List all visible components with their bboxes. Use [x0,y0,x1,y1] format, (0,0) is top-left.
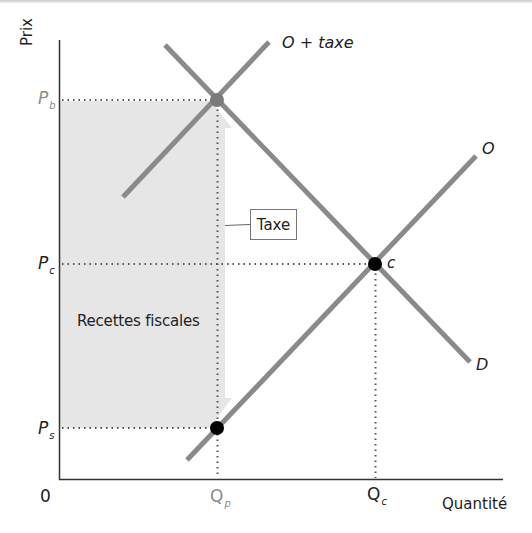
supply-curve [187,156,476,460]
qp-main: Q [210,486,223,506]
supply-tax-label: O + taxe [282,35,354,51]
pb-label: Pb [38,90,56,107]
qc-label: Qc [367,486,387,503]
y-axis-title: Prix [18,18,36,46]
qc-sub: c [381,496,387,507]
origin-label: 0 [40,488,51,505]
qp-sub: p [224,498,230,509]
tax-incidence-diagram [0,0,532,533]
pc-label: Pc [38,255,55,272]
tax-callout-box: Taxe [250,209,297,240]
supply-tax-label-taxe: taxe [318,33,353,52]
tax-callout-text: Taxe [257,216,291,234]
x-axis-title: Quantité [442,497,507,512]
tax-callout-line [225,225,250,226]
tax-revenue-label: Recettes fiscales [77,312,200,330]
ps-label: Ps [38,420,54,437]
supply-label: O [482,141,495,157]
qc-main: Q [367,484,380,504]
qp-label: Qp [210,488,231,505]
supply-tax-label-main: O [282,33,295,52]
point-ps [210,421,224,435]
pb-sub: b [49,100,55,111]
point-c [368,257,382,271]
demand-label: D [476,357,488,373]
point-pb [210,93,224,107]
supply-tax-label-plus: + [295,33,319,52]
ps-sub: s [49,430,54,441]
ps-main: P [38,418,48,438]
point-c-label: c [387,256,395,271]
pc-main: P [38,253,48,273]
pb-main: P [38,88,48,108]
pc-sub: c [49,265,55,276]
